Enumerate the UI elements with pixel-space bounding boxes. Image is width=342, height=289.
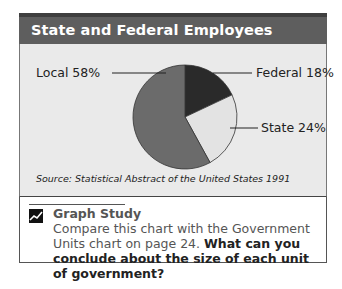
graph-study-box: Graph Study Compare this chart with the … [19,197,327,263]
state-label: State 24% [261,120,326,135]
chart-area: Local 58% Federal 18% State 24% Source: … [19,44,327,197]
federal-label: Federal 18% [256,65,334,80]
study-question: Compare this chart with the Government U… [53,221,325,281]
local-label: Local 58% [36,65,100,80]
divider [29,204,125,205]
source-note: Source: Statistical Abstract of the Unit… [36,173,290,184]
study-title: Graph Study [53,206,141,221]
chart-trend-icon [29,209,43,223]
chart-panel: State and Federal Employees Local 58% Fe… [19,13,327,263]
pie-slices [133,65,237,169]
chart-title: State and Federal Employees [19,13,327,44]
